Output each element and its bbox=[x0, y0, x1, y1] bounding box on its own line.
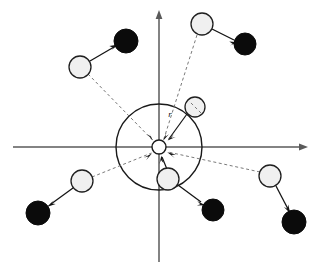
final-node-q4 bbox=[26, 201, 50, 225]
dashed-line-p6-origin bbox=[168, 152, 260, 172]
initial-node-p6 bbox=[259, 165, 281, 187]
inward-arrowhead-upper-left bbox=[147, 133, 153, 141]
final-node-q5 bbox=[282, 210, 306, 234]
radius-vectors-group bbox=[162, 114, 187, 168]
final-node-q1 bbox=[234, 33, 256, 55]
dashed-line-p4-origin bbox=[92, 153, 152, 177]
inward-arrowhead-upper-center bbox=[163, 133, 169, 141]
origin-marker bbox=[152, 140, 166, 154]
radial-displacement-diagram: r bbox=[0, 0, 319, 272]
inward-arrowhead-lower-left bbox=[144, 153, 152, 160]
initial-node-p5 bbox=[157, 168, 179, 190]
axes-group bbox=[13, 10, 308, 262]
radius-vector-p5-origin bbox=[162, 157, 167, 168]
displacement-line-p4-q4 bbox=[51, 188, 73, 204]
dashed-radial-lines-group bbox=[88, 35, 260, 177]
final-node-q2 bbox=[114, 29, 138, 53]
displacement-line-p2-q2 bbox=[90, 47, 114, 61]
radius-label: r bbox=[168, 109, 172, 119]
displacement-line-p1-q1 bbox=[212, 29, 234, 40]
initial-node-p1 bbox=[191, 13, 213, 35]
displacement-line-p5-q3 bbox=[178, 185, 201, 202]
y-axis-arrowhead bbox=[156, 10, 163, 19]
initial-node-p4 bbox=[71, 170, 93, 192]
initial-node-p2 bbox=[69, 56, 91, 78]
figure-canvas: r bbox=[0, 0, 319, 272]
x-axis-arrowhead bbox=[299, 144, 308, 151]
final-node-q3 bbox=[202, 199, 224, 221]
displacement-line-p6-q5 bbox=[276, 186, 288, 209]
